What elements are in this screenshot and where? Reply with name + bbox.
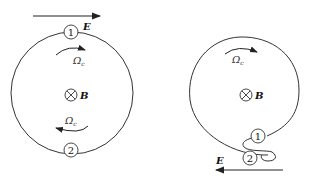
magnetic-field-label: B bbox=[254, 90, 263, 101]
drifting-orbit-path bbox=[190, 37, 299, 155]
rotation-arrow-bottom bbox=[56, 126, 88, 131]
electric-field-label: E bbox=[215, 155, 224, 166]
omega-top-label: Ωc bbox=[72, 55, 85, 67]
point-1-label: 1 bbox=[255, 131, 261, 142]
point-2-label: 2 bbox=[247, 153, 253, 164]
magnetic-field-into-page-icon bbox=[65, 89, 77, 101]
omega-bottom-label: Ωc bbox=[64, 115, 77, 127]
electric-field-label: E bbox=[82, 21, 91, 32]
magnetic-field-into-page-icon bbox=[240, 89, 252, 101]
rotation-arrow bbox=[225, 48, 257, 54]
omega-label: Ωc bbox=[231, 54, 244, 66]
left-panel: 1 E Ωc B Ωc 2 bbox=[11, 16, 133, 157]
point-2-label: 2 bbox=[68, 145, 74, 156]
right-panel: 1 2 Ωc B E bbox=[190, 37, 299, 170]
diagram-canvas: 1 E Ωc B Ωc 2 1 2 Ωc bbox=[0, 0, 315, 183]
rotation-arrow-top bbox=[56, 48, 85, 55]
orbit-circle bbox=[11, 32, 133, 154]
point-1-label: 1 bbox=[68, 27, 74, 38]
magnetic-field-label: B bbox=[79, 90, 88, 101]
